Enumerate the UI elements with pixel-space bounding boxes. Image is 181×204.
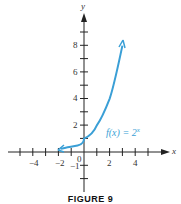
x-tick-label: 4 bbox=[133, 158, 138, 168]
y-tick-label: 4 bbox=[73, 93, 78, 103]
y-axis-arrow-icon bbox=[81, 13, 87, 22]
x-tick-label: −2 bbox=[55, 158, 65, 168]
y-tick-label: 6 bbox=[73, 67, 78, 77]
x-tick-label: 2 bbox=[107, 158, 112, 168]
x-axis-label: x bbox=[171, 146, 176, 156]
y-tick-label: 2 bbox=[73, 120, 78, 130]
x-axis-arrow-icon bbox=[161, 149, 170, 155]
x-tick-label: −4 bbox=[29, 158, 39, 168]
exponential-graph: −4 −2 0 2 4 8 6 4 2 −1 x y f(x) = 2x bbox=[0, 0, 181, 204]
function-label: f(x) = 2x bbox=[106, 126, 141, 139]
figure-caption: FIGURE 9 bbox=[0, 194, 181, 204]
y-axis-label: y bbox=[80, 1, 85, 11]
y-tick-label: 8 bbox=[73, 40, 78, 50]
y-tick-label: −1 bbox=[70, 161, 80, 171]
